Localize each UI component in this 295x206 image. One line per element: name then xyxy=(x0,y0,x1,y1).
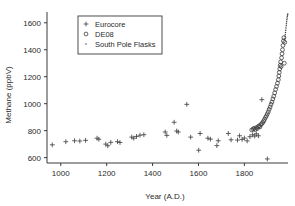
marker-dot xyxy=(285,32,287,34)
y-tick-label: 1200 xyxy=(23,73,41,82)
marker-dot xyxy=(284,36,286,38)
y-axis-title: Methane (ppbV) xyxy=(4,66,13,124)
x-tick-label: 1000 xyxy=(52,169,70,178)
marker-dot xyxy=(284,34,286,36)
marker-dot xyxy=(285,25,287,27)
x-tick-label: 1800 xyxy=(235,169,253,178)
marker-dot xyxy=(285,27,287,29)
x-tick-label: 1400 xyxy=(144,169,162,178)
marker-dot xyxy=(286,23,288,25)
x-tick-label: 1200 xyxy=(98,169,116,178)
y-tick-label: 600 xyxy=(28,154,42,163)
y-tick-label: 1000 xyxy=(23,100,41,109)
chart-canvas: 6008001000120014001600 10001200140016001… xyxy=(0,0,295,206)
legend-label: Eurocore xyxy=(95,20,125,29)
y-tick-label: 800 xyxy=(28,127,42,136)
marker-dot xyxy=(286,17,288,19)
y-tick-label: 1400 xyxy=(23,46,41,55)
legend-label: South Pole Flasks xyxy=(95,40,156,49)
chart-legend: EurocoreDE08South Pole Flasks xyxy=(78,16,162,54)
legend-entry-south-pole-flasks: South Pole Flasks xyxy=(85,40,155,49)
x-tick-label: 1600 xyxy=(190,169,208,178)
marker-dot xyxy=(285,29,287,31)
x-axis-title: Year (A.D.) xyxy=(145,192,185,201)
marker-dot xyxy=(85,43,87,45)
methane-concentration-chart: 6008001000120014001600 10001200140016001… xyxy=(0,0,295,206)
marker-dot xyxy=(287,16,289,18)
marker-dot xyxy=(284,38,286,40)
marker-dot xyxy=(286,19,288,21)
marker-dot xyxy=(286,21,288,23)
legend-label: DE08 xyxy=(95,30,114,39)
marker-dot xyxy=(287,13,289,15)
y-tick-label: 1600 xyxy=(23,19,41,28)
